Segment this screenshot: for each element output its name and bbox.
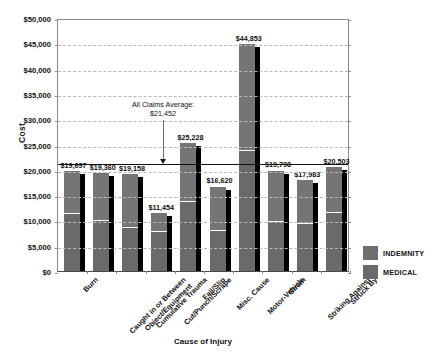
y-axis-tick-label: $0 bbox=[1, 268, 51, 277]
bar-group[interactable] bbox=[326, 167, 347, 271]
y-axis-tick-label: $40,000 bbox=[1, 65, 51, 74]
bar-value-label: $25,228 bbox=[177, 133, 203, 142]
y-axis-tick-mark bbox=[55, 96, 58, 97]
y-axis-tick-label: $35,000 bbox=[1, 90, 51, 99]
x-axis-title: Cause of Injury bbox=[57, 337, 349, 346]
average-callout-label: All Claims Average:$21,452 bbox=[132, 100, 194, 118]
bar-segment-indemnity bbox=[180, 201, 196, 271]
bar-3d-shadow bbox=[138, 177, 143, 271]
bar-segment-medical bbox=[64, 171, 80, 212]
legend-color-swatch bbox=[363, 265, 378, 279]
x-axis-tick-mark bbox=[350, 271, 351, 274]
y-axis-tick-mark-right bbox=[348, 45, 351, 46]
bar-stack[interactable] bbox=[210, 187, 226, 271]
bars-layer: $19,697$19,360$19,158$11,454$25,228$16,6… bbox=[58, 20, 348, 271]
y-axis-tick-label: $15,000 bbox=[1, 192, 51, 201]
bar-group[interactable] bbox=[268, 171, 289, 271]
bar-segment-indemnity bbox=[122, 227, 138, 271]
y-axis-tick-mark-right bbox=[348, 147, 351, 148]
x-axis-tick-mark bbox=[262, 271, 263, 274]
x-axis-tick-label-line: Misc. Cause bbox=[235, 276, 271, 312]
gridline bbox=[58, 147, 348, 148]
x-axis-tick-label-line: Burn bbox=[82, 276, 100, 294]
bar-segment-indemnity bbox=[326, 212, 342, 271]
bar-stack[interactable] bbox=[297, 180, 313, 271]
y-axis-tick-mark bbox=[55, 147, 58, 148]
gridline bbox=[58, 71, 348, 72]
legend-color-swatch bbox=[363, 246, 378, 260]
x-axis-tick-label[interactable]: Strain bbox=[287, 276, 308, 297]
bar-value-label: $11,454 bbox=[148, 203, 174, 212]
y-axis-tick-mark-right bbox=[348, 71, 351, 72]
x-axis-tick-mark bbox=[87, 271, 88, 274]
bar-segment-indemnity bbox=[239, 150, 255, 271]
average-callout-arrow-head bbox=[160, 159, 166, 164]
x-axis-tick-label-line: Strain bbox=[287, 276, 308, 297]
x-axis-tick-mark bbox=[116, 271, 117, 274]
bar-stack[interactable] bbox=[180, 143, 196, 271]
bar-group[interactable] bbox=[210, 187, 231, 271]
bar-segment-indemnity bbox=[268, 221, 284, 271]
bar-stack[interactable] bbox=[239, 44, 255, 271]
x-axis-tick-label[interactable]: Caught in or BetweenObject/Equipment bbox=[128, 276, 194, 342]
average-reference-line bbox=[58, 164, 348, 165]
chart-legend: INDEMNITYMEDICAL bbox=[363, 246, 441, 284]
bar-value-label: $16,620 bbox=[207, 176, 233, 185]
y-axis-tick-mark bbox=[55, 248, 58, 249]
x-axis-tick-label[interactable]: Misc. Cause bbox=[235, 276, 271, 312]
y-axis-tick-mark-right bbox=[348, 222, 351, 223]
average-callout-arrow-stem bbox=[163, 120, 164, 160]
y-axis-tick-mark bbox=[55, 222, 58, 223]
y-axis-tick-mark bbox=[55, 172, 58, 173]
bar-stack[interactable] bbox=[64, 171, 80, 271]
injury-cost-chart: Cost $50,000$45,000$40,000$35,000$30,000… bbox=[0, 0, 442, 354]
bar-3d-shadow bbox=[342, 170, 347, 271]
bar-group[interactable] bbox=[64, 171, 85, 271]
y-axis-tick-mark-right bbox=[348, 96, 351, 97]
bar-group[interactable] bbox=[239, 44, 260, 271]
gridline bbox=[58, 248, 348, 249]
y-axis-tick-label: $20,000 bbox=[1, 166, 51, 175]
x-axis-tick-mark bbox=[175, 271, 176, 274]
x-axis-tick-mark bbox=[321, 271, 322, 274]
legend-item-label: INDEMNITY bbox=[383, 249, 424, 258]
y-axis-tick-label: $45,000 bbox=[1, 40, 51, 49]
bar-3d-shadow bbox=[255, 47, 260, 271]
bar-group[interactable] bbox=[180, 143, 201, 271]
y-axis-tick-mark bbox=[55, 45, 58, 46]
y-axis-tick-labels: $50,000$45,000$40,000$35,000$30,000$25,0… bbox=[0, 0, 55, 354]
y-axis-tick-mark-right bbox=[348, 172, 351, 173]
bar-stack[interactable] bbox=[326, 167, 342, 271]
gridline bbox=[58, 172, 348, 173]
y-axis-tick-mark bbox=[55, 273, 58, 274]
y-axis-tick-label: $25,000 bbox=[1, 141, 51, 150]
y-axis-tick-label: $10,000 bbox=[1, 217, 51, 226]
y-axis-tick-label: $5,000 bbox=[1, 242, 51, 251]
y-axis-tick-mark-right bbox=[348, 121, 351, 122]
x-axis-tick-label[interactable]: Burn bbox=[82, 276, 100, 294]
bar-segment-medical bbox=[268, 171, 284, 221]
y-axis-tick-mark-right bbox=[348, 20, 351, 21]
gridline bbox=[58, 222, 348, 223]
bar-segment-medical bbox=[326, 167, 342, 212]
legend-item[interactable]: INDEMNITY bbox=[363, 246, 441, 260]
bar-value-label: $44,853 bbox=[236, 34, 262, 43]
bar-3d-shadow bbox=[226, 190, 231, 271]
y-axis-tick-mark-right bbox=[348, 197, 351, 198]
x-axis-tick-mark bbox=[233, 271, 234, 274]
bar-segment-indemnity bbox=[210, 230, 226, 271]
legend-item[interactable]: MEDICAL bbox=[363, 265, 441, 279]
bar-stack[interactable] bbox=[268, 171, 284, 271]
bar-3d-shadow bbox=[109, 176, 114, 271]
bar-group[interactable] bbox=[297, 180, 318, 271]
x-axis-tick-mark bbox=[204, 271, 205, 274]
average-callout-label-line: All Claims Average: bbox=[132, 100, 194, 109]
plot-area: $19,697$19,360$19,158$11,454$25,228$16,6… bbox=[57, 19, 349, 272]
x-axis-tick-mark bbox=[146, 271, 147, 274]
y-axis-tick-mark bbox=[55, 197, 58, 198]
gridline bbox=[58, 96, 348, 97]
bar-segment-indemnity bbox=[93, 220, 109, 271]
gridline bbox=[58, 121, 348, 122]
y-axis-tick-mark-right bbox=[348, 248, 351, 249]
gridline bbox=[58, 45, 348, 46]
